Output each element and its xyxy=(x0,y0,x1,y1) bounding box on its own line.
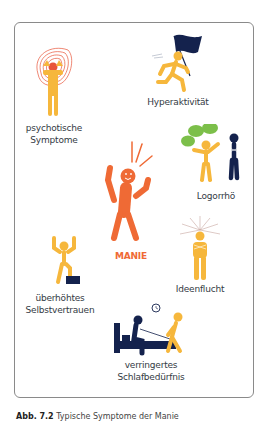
label-line: Selbstvertrauen xyxy=(22,304,98,316)
label-mania: MANIE xyxy=(106,250,156,262)
label-reduced-sleep: verringertes Schlafbedürfnis xyxy=(110,359,192,383)
flight-of-ideas-icon xyxy=(174,214,226,282)
label-self-confidence: überhöhtes Selbstvertrauen xyxy=(22,292,98,316)
label-line: Ideenflucht xyxy=(168,283,232,295)
label-flight-of-ideas: Ideenflucht xyxy=(168,283,232,295)
psychotic-symptoms-icon xyxy=(30,44,74,122)
hyperactivity-icon xyxy=(150,32,206,94)
label-line: psychotische xyxy=(22,122,86,134)
logorrhea-icon xyxy=(180,124,246,182)
caption-prefix: Abb. 7.2 xyxy=(16,412,54,421)
label-line: überhöhtes xyxy=(22,292,98,304)
label-logorrhea: Logorrhö xyxy=(186,190,246,202)
reduced-sleep-icon xyxy=(110,303,192,359)
label-line: Hyperaktivität xyxy=(140,96,216,108)
label-line: Symptome xyxy=(22,134,86,146)
self-confidence-icon xyxy=(48,236,82,288)
label-hyperactivity: Hyperaktivität xyxy=(140,96,216,108)
caption-text: Typische Symptome der Manie xyxy=(56,412,179,421)
label-line: verringertes xyxy=(110,359,192,371)
label-line: Logorrhö xyxy=(186,190,246,202)
label-line: Schlafbedürfnis xyxy=(110,371,192,383)
label-psychotic-symptoms: psychotische Symptome xyxy=(22,122,86,146)
mania-figure-icon xyxy=(98,138,162,244)
figure-caption: Abb. 7.2 Typische Symptome der Manie xyxy=(16,412,179,421)
